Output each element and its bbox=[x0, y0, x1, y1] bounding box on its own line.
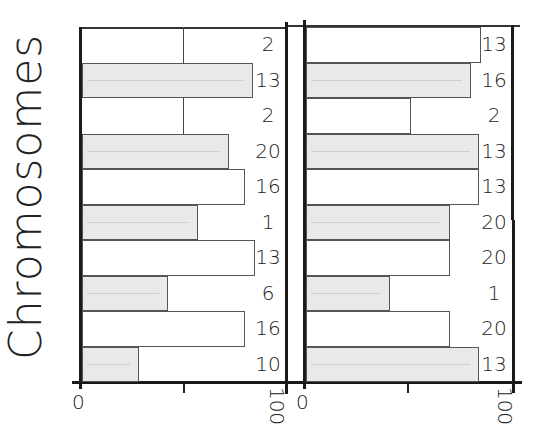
bar-count-label: 13 bbox=[477, 32, 511, 56]
y-axis-label: Chromosomes bbox=[0, 80, 60, 360]
bar bbox=[82, 27, 184, 63]
bar bbox=[306, 63, 471, 99]
right-x-tick-100: 100 bbox=[493, 387, 517, 425]
bar-count-label: 20 bbox=[477, 245, 511, 269]
right-right-border-lower bbox=[512, 220, 515, 393]
bar bbox=[82, 205, 198, 241]
bar bbox=[82, 311, 245, 347]
right-mid-tick bbox=[407, 384, 409, 393]
bar-count-label: 13 bbox=[477, 352, 511, 376]
bar bbox=[306, 240, 450, 276]
bar-count-label: 6 bbox=[251, 281, 285, 305]
right-x-tick-0: 0 bbox=[296, 390, 309, 414]
bar-count-label: 16 bbox=[251, 174, 285, 198]
bar-count-label: 13 bbox=[251, 68, 285, 92]
bar bbox=[82, 98, 184, 134]
bar bbox=[82, 134, 229, 170]
bar-count-label: 13 bbox=[477, 174, 511, 198]
bar bbox=[306, 311, 450, 347]
bar-count-label: 13 bbox=[251, 245, 285, 269]
bar-count-label: 20 bbox=[477, 210, 511, 234]
bar-count-label: 1 bbox=[251, 210, 285, 234]
bar bbox=[306, 134, 479, 170]
left-right-border bbox=[285, 22, 288, 394]
bar bbox=[82, 240, 255, 276]
bar bbox=[82, 276, 168, 312]
bar-count-label: 16 bbox=[477, 68, 511, 92]
left-x-tick-100: 100 bbox=[265, 387, 289, 425]
bar bbox=[306, 98, 411, 134]
left-x-tick-0: 0 bbox=[72, 390, 85, 414]
bar bbox=[306, 169, 479, 205]
right-right-border bbox=[511, 25, 514, 220]
bar-count-label: 20 bbox=[251, 139, 285, 163]
bar bbox=[306, 347, 479, 383]
bar-count-label: 16 bbox=[251, 316, 285, 340]
bar-count-label: 13 bbox=[477, 139, 511, 163]
bar bbox=[306, 27, 481, 63]
bar bbox=[306, 205, 450, 241]
left-mid-tick bbox=[183, 384, 185, 393]
bar-count-label: 20 bbox=[477, 316, 511, 340]
bar-count-label: 2 bbox=[251, 32, 285, 56]
bar bbox=[82, 63, 253, 99]
bar bbox=[306, 276, 390, 312]
bar bbox=[82, 347, 139, 383]
bar-count-label: 1 bbox=[477, 281, 511, 305]
bar-count-label: 2 bbox=[251, 103, 285, 127]
bar-count-label: 2 bbox=[477, 103, 511, 127]
bar bbox=[82, 169, 245, 205]
bar-count-label: 10 bbox=[251, 352, 285, 376]
